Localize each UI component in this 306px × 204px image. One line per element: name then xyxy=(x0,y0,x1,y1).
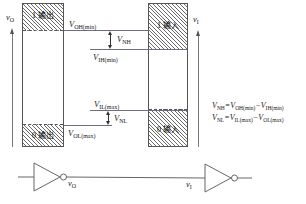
vil-max-label-sub: IL(max) xyxy=(99,104,119,110)
input-axis-arrowhead xyxy=(196,30,200,36)
eq-vnl-term1: V xyxy=(230,113,235,122)
output-high-band-label: 1 输出 xyxy=(22,11,64,20)
load-inverter-gate xyxy=(205,164,252,192)
input-axis-label-sub: I xyxy=(197,19,199,25)
circuit-svg xyxy=(0,150,306,204)
output-axis-label: vO xyxy=(6,12,14,22)
vol-max-label-sub: OL(max) xyxy=(73,133,95,139)
output-voltage-column xyxy=(22,3,64,147)
output-axis-label-sub: O xyxy=(10,17,14,23)
equation-vnl: VNL=VIL(max)−VOL(max) xyxy=(212,112,284,124)
eq-vnl-term1-sub: IL(max) xyxy=(235,117,253,123)
input-low-band-label: 0 输入 xyxy=(148,125,188,134)
vol-max-label: VOL(max) xyxy=(68,128,96,138)
input-axis-line xyxy=(198,35,199,147)
vnl-arrowhead-down xyxy=(106,121,110,125)
driver-inverter-gate xyxy=(18,163,67,191)
driver-triangle-icon xyxy=(34,163,60,191)
vnh-margin-arrow xyxy=(106,31,115,49)
voh-min-label-sub: OH(min) xyxy=(74,24,96,30)
interconnect-wire xyxy=(67,177,206,178)
input-signal-label: vI xyxy=(186,179,192,189)
output-signal-label-sub: O xyxy=(72,183,76,189)
eq-vnh-term2: V xyxy=(261,101,266,110)
eq-vnh-term2-sub: IH(min) xyxy=(266,105,284,111)
eq-vnl-term2-sub: OL(max) xyxy=(263,117,283,123)
load-bubble-icon xyxy=(232,175,238,181)
eq-vnh-lhs-sub: NH xyxy=(217,105,225,111)
vnh-arrowhead-down xyxy=(108,45,112,49)
voh-min-label: VOH(min) xyxy=(69,19,96,29)
vil-max-label: VIL(max) xyxy=(94,99,119,109)
vih-min-label: VIH(min) xyxy=(93,52,118,62)
vih-min-label-sub: IH(min) xyxy=(98,57,118,63)
load-triangle-icon xyxy=(205,164,231,192)
output-low-band-label: 0 输出 xyxy=(22,131,64,140)
output-axis-line xyxy=(12,33,13,147)
vnl-label-sub: NL xyxy=(119,118,127,124)
driver-bubble-icon xyxy=(61,174,67,180)
vol-max-level-line xyxy=(64,125,112,126)
vnh-label-sub: NH xyxy=(122,39,131,45)
vnl-label: VNL xyxy=(114,113,127,123)
eq-vnl-lhs-sub: NL xyxy=(217,117,224,123)
input-signal-label-sub: I xyxy=(190,184,192,190)
input-axis-label: vI xyxy=(193,14,199,24)
eq-vnh-term1-sub: OH(min) xyxy=(235,105,255,111)
inverter-chain-circuit: vO vI xyxy=(0,150,306,204)
vnl-margin-arrow xyxy=(104,111,113,125)
vnh-label: VNH xyxy=(117,34,131,44)
vih-min-level-line xyxy=(90,49,188,50)
noise-margin-diagram: 1 输出 0 输出 vO 1 输入 0 输入 vI VOH(min) VIH(m… xyxy=(0,0,306,204)
input-high-band-label: 1 输入 xyxy=(148,21,188,30)
output-axis-arrowhead xyxy=(10,28,14,34)
equation-vnh: VNH=VOH(min)−VIH(min) xyxy=(212,100,284,112)
noise-margin-equations: VNH=VOH(min)−VIH(min) VNL=VIL(max)−VOL(m… xyxy=(212,100,284,124)
output-signal-label: vO xyxy=(68,178,76,188)
